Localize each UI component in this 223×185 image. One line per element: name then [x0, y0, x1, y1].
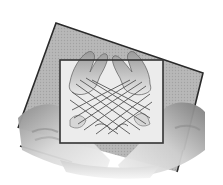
cats-cradle-illustration	[0, 0, 223, 185]
illustration: Grayscale illustration of two pairs of h…	[0, 0, 223, 185]
